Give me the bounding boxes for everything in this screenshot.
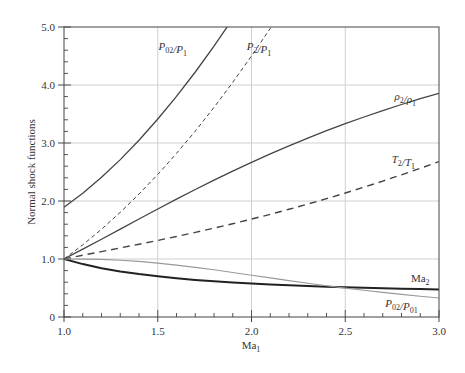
x-tick-label: 1.0	[57, 325, 71, 337]
curve-label-p02-p01: P02/P01	[384, 297, 418, 315]
x-tick-label: 3.0	[432, 325, 446, 337]
x-tick-label: 1.5	[151, 325, 165, 337]
y-tick-label: 1.0	[41, 253, 55, 265]
curve-p2-p1	[64, 0, 289, 259]
x-axis-tick-labels: 1.01.52.02.53.0	[57, 325, 446, 337]
curve-label-ma2: Ma2	[411, 272, 430, 287]
y-tick-label: 4.0	[41, 79, 55, 91]
curve-label--2-1: ρ2/ρ1	[393, 90, 416, 108]
normal-shock-chart: 1.01.52.02.53.0 01.02.03.04.05.0 P02/P1P…	[0, 0, 465, 373]
y-tick-label: 5.0	[41, 21, 55, 33]
curve-label-p2-p1: P2/P1	[246, 40, 272, 58]
curve-label-t2-t1: T2/T1	[392, 153, 415, 171]
x-axis-title: Ma1	[242, 339, 261, 354]
y-axis-tick-labels: 01.02.03.04.05.0	[41, 21, 55, 323]
grid-lines	[64, 27, 439, 317]
y-tick-label: 0	[50, 311, 56, 323]
x-tick-label: 2.5	[338, 325, 352, 337]
curve-labels: P02/P1P2/P1ρ2/ρ1T2/T1Ma2P02/P01	[157, 40, 429, 314]
plot-frame	[58, 27, 439, 322]
y-tick-label: 2.0	[41, 195, 55, 207]
y-tick-label: 3.0	[41, 137, 55, 149]
x-tick-label: 2.0	[245, 325, 259, 337]
curve-label-p02-p1: P02/P1	[157, 40, 187, 58]
y-axis-title: Normal shock functions	[25, 119, 37, 225]
